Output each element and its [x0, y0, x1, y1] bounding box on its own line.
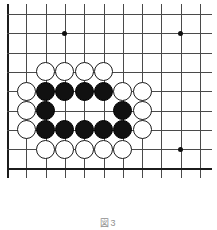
black-stone[interactable]: [113, 120, 132, 139]
figure-caption: 図3: [0, 218, 217, 229]
grid-line-horizontal: [7, 53, 212, 54]
white-stone[interactable]: [17, 82, 36, 101]
black-stone[interactable]: [94, 120, 113, 139]
white-stone[interactable]: [94, 140, 113, 159]
white-stone[interactable]: [36, 62, 55, 81]
black-stone[interactable]: [36, 120, 55, 139]
black-stone[interactable]: [55, 120, 74, 139]
black-stone[interactable]: [55, 82, 74, 101]
white-stone[interactable]: [75, 62, 94, 81]
white-stone[interactable]: [133, 120, 152, 139]
black-stone[interactable]: [36, 101, 55, 120]
white-stone[interactable]: [94, 62, 113, 81]
black-stone[interactable]: [75, 82, 94, 101]
white-stone[interactable]: [133, 101, 152, 120]
black-stone[interactable]: [94, 82, 113, 101]
white-stone[interactable]: [55, 62, 74, 81]
black-stone[interactable]: [113, 101, 132, 120]
black-stone[interactable]: [36, 82, 55, 101]
black-stone[interactable]: [75, 120, 94, 139]
star-point: [62, 31, 67, 36]
star-point: [178, 31, 183, 36]
white-stone[interactable]: [133, 82, 152, 101]
go-diagram-figure: 図3: [0, 0, 217, 230]
grid-line-horizontal: [7, 14, 212, 15]
white-stone[interactable]: [113, 82, 132, 101]
go-board[interactable]: [0, 0, 217, 218]
white-stone[interactable]: [75, 140, 94, 159]
white-stone[interactable]: [17, 101, 36, 120]
grid-line-horizontal: [7, 168, 212, 170]
star-point: [178, 147, 183, 152]
white-stone[interactable]: [113, 140, 132, 159]
white-stone[interactable]: [55, 140, 74, 159]
white-stone[interactable]: [17, 120, 36, 139]
white-stone[interactable]: [36, 140, 55, 159]
